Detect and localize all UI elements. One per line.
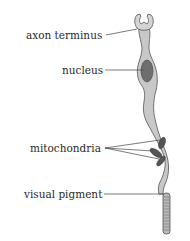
label-mitochondria: mitochondria — [30, 142, 101, 154]
label-visual-pigment: visual pigment — [24, 188, 102, 200]
nucleus-shape — [141, 60, 153, 82]
label-nucleus: nucleus — [62, 64, 103, 76]
outer-segment — [163, 193, 170, 234]
label-axon-terminus: axon terminus — [26, 29, 102, 41]
cell-body — [137, 27, 168, 194]
leader-lines — [104, 29, 164, 194]
axon-terminus-shape — [135, 14, 154, 30]
